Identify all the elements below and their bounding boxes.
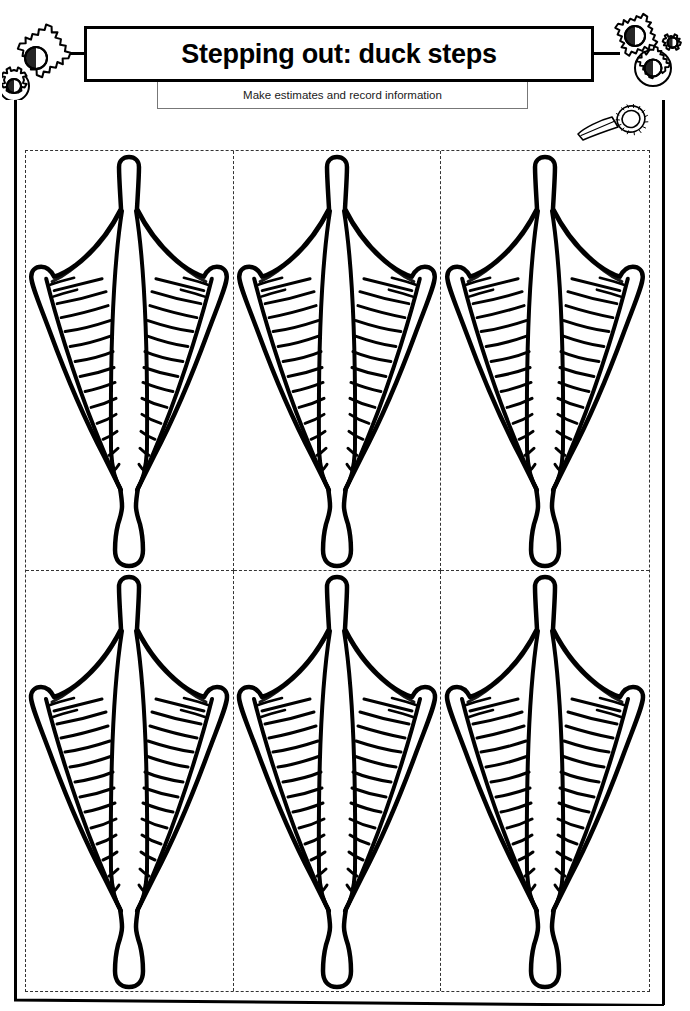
duck-foot-1 bbox=[26, 151, 233, 570]
worksheet-title-box: Stepping out: duck steps bbox=[84, 26, 594, 82]
worksheet-page: Stepping out: duck steps Make estimates … bbox=[0, 0, 690, 1011]
duck-foot-5 bbox=[234, 571, 441, 991]
duck-foot-4 bbox=[26, 571, 233, 991]
duck-foot-3 bbox=[441, 151, 649, 570]
gear-cluster-icon-right bbox=[608, 6, 688, 98]
cutout-cell-2 bbox=[234, 151, 442, 571]
cutout-cell-6 bbox=[441, 571, 649, 991]
page-title: Stepping out: duck steps bbox=[181, 41, 496, 68]
cutout-cell-1 bbox=[26, 151, 234, 571]
cutout-cell-4 bbox=[26, 571, 234, 991]
cutout-cell-3 bbox=[441, 151, 649, 571]
duck-foot-6 bbox=[441, 571, 649, 991]
magnifying-glass-icon bbox=[574, 104, 652, 152]
worksheet-subtitle-box: Make estimates and record information bbox=[157, 82, 528, 109]
page-subtitle: Make estimates and record information bbox=[243, 89, 442, 101]
duck-foot-2 bbox=[234, 151, 441, 570]
cutout-grid bbox=[25, 150, 650, 992]
gear-cluster-icon-left bbox=[2, 14, 80, 100]
cutout-cell-5 bbox=[234, 571, 442, 991]
